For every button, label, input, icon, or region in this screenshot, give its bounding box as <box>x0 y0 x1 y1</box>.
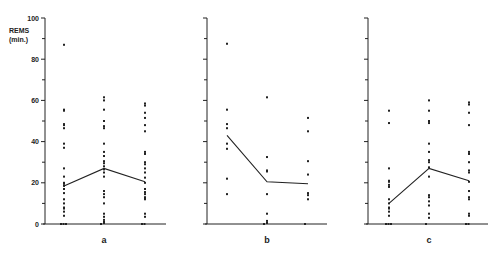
data-point <box>428 99 430 101</box>
panel-label-c: c <box>426 235 431 245</box>
data-point <box>103 99 105 101</box>
y-tick-label: 20 <box>31 179 39 186</box>
y-tick-label: 80 <box>31 56 39 63</box>
data-point <box>144 223 146 225</box>
data-point <box>144 105 146 107</box>
data-point <box>263 223 265 225</box>
data-point <box>468 172 470 174</box>
data-point <box>144 153 146 155</box>
data-point <box>468 215 470 217</box>
data-point <box>103 127 105 129</box>
data-point <box>468 104 470 106</box>
data-point <box>103 125 105 127</box>
data-point <box>144 213 146 215</box>
data-point <box>103 143 105 145</box>
data-point <box>144 163 146 165</box>
data-point <box>103 151 105 153</box>
data-point <box>468 190 470 192</box>
data-point <box>468 101 470 103</box>
data-point <box>468 112 470 114</box>
data-point <box>468 169 470 171</box>
y-tick-label: 60 <box>31 97 39 104</box>
data-point <box>63 44 65 46</box>
data-point <box>103 216 105 218</box>
data-point <box>144 198 146 200</box>
data-point <box>307 192 309 194</box>
panel-label-a: a <box>101 235 107 245</box>
data-point <box>385 223 387 225</box>
data-point <box>468 161 470 163</box>
data-point <box>266 170 268 172</box>
data-point <box>63 208 65 210</box>
data-point <box>144 188 146 190</box>
rems-strip-chart: 020406080100abc <box>0 0 504 253</box>
data-point <box>63 110 65 112</box>
data-point <box>226 43 228 45</box>
data-point <box>388 211 390 213</box>
data-point <box>266 220 268 222</box>
data-point <box>63 124 65 126</box>
data-point <box>390 223 392 225</box>
data-point <box>144 102 146 104</box>
data-point <box>307 117 309 119</box>
data-point <box>266 222 268 224</box>
data-point <box>63 192 65 194</box>
data-point <box>63 202 65 204</box>
data-point <box>266 156 268 158</box>
data-point <box>388 184 390 186</box>
data-point <box>100 223 102 225</box>
data-point <box>226 109 228 111</box>
data-point <box>103 96 105 98</box>
data-point <box>388 186 390 188</box>
data-point <box>144 172 146 174</box>
data-point <box>60 223 62 225</box>
data-point <box>468 124 470 126</box>
data-point <box>468 213 470 215</box>
data-point <box>266 213 268 215</box>
data-point <box>63 183 65 185</box>
data-point <box>63 143 65 145</box>
data-point <box>141 223 143 225</box>
data-point <box>388 110 390 112</box>
data-point <box>103 160 105 162</box>
data-point <box>428 213 430 215</box>
data-point <box>144 177 146 179</box>
data-point <box>63 215 65 217</box>
data-point <box>307 194 309 196</box>
data-point <box>304 223 306 225</box>
data-point <box>307 130 309 132</box>
data-point <box>103 172 105 174</box>
data-point <box>63 176 65 178</box>
data-point <box>144 193 146 195</box>
data-point <box>468 151 470 153</box>
data-point <box>144 112 146 114</box>
data-point <box>103 219 105 221</box>
data-point <box>425 223 427 225</box>
data-point <box>103 196 105 198</box>
data-point <box>388 223 390 225</box>
data-point <box>428 122 430 124</box>
data-point <box>428 194 430 196</box>
data-point <box>226 123 228 125</box>
data-point <box>307 198 309 200</box>
data-point <box>103 155 105 157</box>
data-point <box>103 213 105 215</box>
data-point <box>63 211 65 213</box>
data-point <box>428 176 430 178</box>
data-point <box>388 167 390 169</box>
data-point <box>226 148 228 150</box>
data-point <box>428 110 430 112</box>
data-point <box>468 153 470 155</box>
data-point <box>103 193 105 195</box>
data-point <box>63 147 65 149</box>
data-point <box>428 196 430 198</box>
data-point <box>428 143 430 145</box>
data-point <box>144 117 146 119</box>
data-point <box>144 151 146 153</box>
data-point <box>144 216 146 218</box>
data-point <box>266 193 268 195</box>
data-point <box>388 215 390 217</box>
data-point <box>103 222 105 224</box>
data-point <box>388 208 390 210</box>
data-point <box>63 188 65 190</box>
